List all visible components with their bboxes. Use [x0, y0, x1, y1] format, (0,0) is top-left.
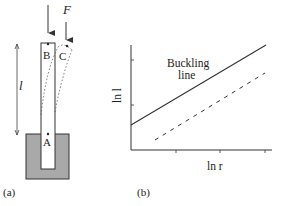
- length-label: l: [19, 78, 23, 93]
- y-axis-label: ln l: [111, 88, 123, 103]
- force-label: F: [62, 2, 72, 17]
- rod: [41, 43, 55, 169]
- figure-canvas: l F B C A (a) Buckling line ln l ln r (b…: [0, 0, 281, 206]
- panel-a-caption: (a): [3, 186, 16, 199]
- annotation-line: line: [178, 69, 195, 81]
- point-a-label: A: [43, 136, 51, 148]
- panel-b: Buckling line ln l ln r (b): [111, 45, 272, 199]
- point-b-label: B: [43, 49, 50, 61]
- point-b-marker: [47, 43, 49, 45]
- point-c-marker: [66, 45, 68, 47]
- point-c-label: C: [59, 50, 66, 62]
- panel-b-caption: (b): [137, 186, 150, 199]
- point-a-marker: [47, 133, 49, 135]
- x-axis-label: ln r: [207, 160, 223, 172]
- dashed-line: [155, 73, 265, 140]
- panel-a: l F B C A (a): [3, 2, 72, 199]
